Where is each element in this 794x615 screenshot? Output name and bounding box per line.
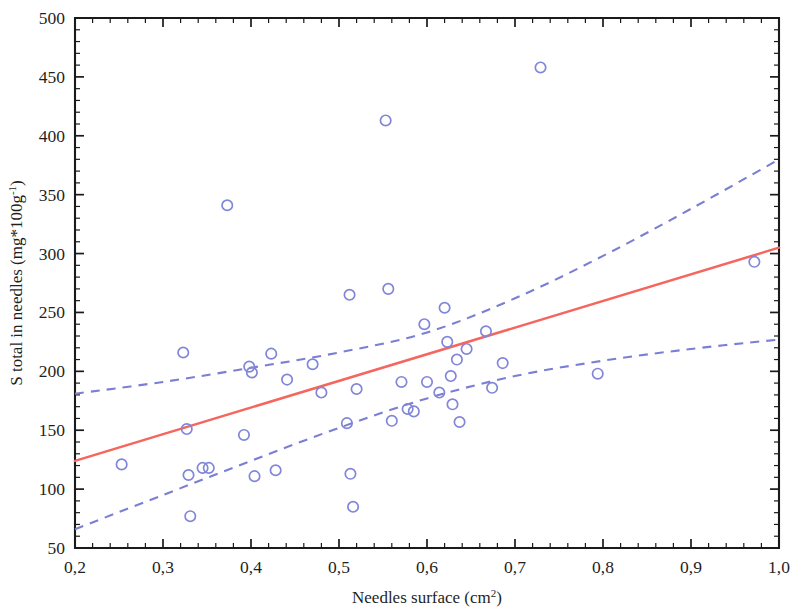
- y-axis-major-ticks: [75, 18, 779, 548]
- regression-fit-line: [75, 248, 779, 461]
- y-tick-label: 100: [39, 479, 66, 499]
- data-point: [185, 511, 195, 521]
- data-point: [282, 374, 292, 384]
- data-point: [222, 200, 232, 210]
- data-point: [348, 502, 358, 512]
- x-tick-label: 0,4: [240, 557, 262, 577]
- plot-frame: [75, 18, 779, 548]
- y-tick-label: 50: [48, 538, 66, 558]
- confidence-band-group: [75, 159, 779, 529]
- data-point: [345, 469, 355, 479]
- data-point: [409, 406, 419, 416]
- data-point: [442, 337, 452, 347]
- scatter-plot-figure: 50100150200250300350400450500 0,20,30,40…: [0, 0, 794, 615]
- y-tick-label: 250: [39, 302, 66, 322]
- data-point: [481, 326, 491, 336]
- axes-box: [75, 18, 779, 548]
- x-tick-label: 1,0: [768, 557, 790, 577]
- data-point: [452, 354, 462, 364]
- x-tick-label: 0,9: [680, 557, 702, 577]
- data-point: [749, 257, 759, 267]
- data-point: [535, 62, 545, 72]
- data-point: [497, 358, 507, 368]
- y-axis-title: S total in needles (mg*100g-1): [6, 180, 26, 386]
- x-tick-label: 0,3: [152, 557, 174, 577]
- data-point: [461, 344, 471, 354]
- data-point: [419, 319, 429, 329]
- data-point: [204, 463, 214, 473]
- data-point: [266, 348, 276, 358]
- x-axis-tick-labels: 0,20,30,40,50,60,70,80,91,0: [64, 557, 790, 577]
- regression-line: [75, 248, 779, 461]
- y-tick-label: 200: [39, 361, 66, 381]
- x-tick-label: 0,2: [64, 557, 86, 577]
- data-point: [434, 387, 444, 397]
- y-tick-label: 350: [39, 185, 66, 205]
- confidence-band: [75, 340, 779, 530]
- data-point: [307, 359, 317, 369]
- data-point: [183, 470, 193, 480]
- x-tick-label: 0,5: [328, 557, 350, 577]
- data-point: [270, 465, 280, 475]
- data-point: [383, 284, 393, 294]
- data-point: [351, 384, 361, 394]
- x-axis-major-ticks: [75, 18, 779, 548]
- data-point-group: [116, 62, 759, 521]
- data-point: [387, 416, 397, 426]
- y-tick-label: 300: [39, 244, 66, 264]
- data-point: [439, 303, 449, 313]
- x-tick-label: 0,7: [504, 557, 526, 577]
- data-point: [239, 430, 249, 440]
- data-point: [396, 377, 406, 387]
- data-point: [178, 347, 188, 357]
- data-point: [249, 471, 259, 481]
- data-point: [447, 399, 457, 409]
- x-axis-title: Needles surface (cm2): [352, 587, 502, 607]
- y-tick-label: 450: [39, 67, 66, 87]
- data-point: [454, 417, 464, 427]
- data-point: [593, 368, 603, 378]
- data-point: [487, 383, 497, 393]
- data-point: [446, 371, 456, 381]
- data-point: [316, 387, 326, 397]
- y-axis-tick-labels: 50100150200250300350400450500: [39, 8, 66, 558]
- y-tick-label: 150: [39, 420, 66, 440]
- chart-canvas: 50100150200250300350400450500 0,20,30,40…: [0, 0, 794, 615]
- x-tick-label: 0,8: [592, 557, 614, 577]
- y-tick-label: 400: [39, 126, 66, 146]
- y-tick-label: 500: [39, 8, 66, 28]
- data-point: [380, 115, 390, 125]
- data-point: [116, 459, 126, 469]
- x-tick-label: 0,6: [416, 557, 438, 577]
- confidence-band: [75, 159, 779, 393]
- y-axis-minor-ticks: [75, 30, 779, 536]
- data-point: [344, 290, 354, 300]
- data-point: [422, 377, 432, 387]
